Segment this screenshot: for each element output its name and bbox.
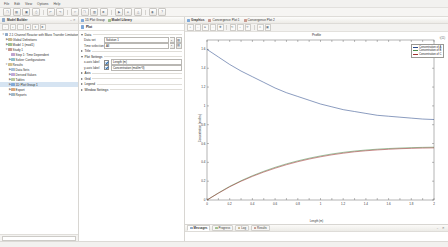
- move-down-icon[interactable]: ▼: [32, 24, 39, 31]
- copy-button[interactable]: ❐: [81, 8, 89, 16]
- section-label: Data: [85, 33, 92, 37]
- y-tick-label: 1.2: [201, 85, 206, 89]
- section-twisty-icon[interactable]: [81, 34, 83, 36]
- new-file-button[interactable]: ❐: [3, 8, 11, 16]
- x-tick-label: 0.6: [273, 202, 278, 206]
- save-button[interactable]: ▣: [22, 8, 30, 16]
- settings-tab-0[interactable]: 1D Plot Group: [81, 18, 105, 22]
- y-axis-label-checkbox[interactable]: [104, 65, 109, 70]
- dock-tab-progress[interactable]: Progress: [212, 225, 233, 232]
- dock-tab-label: Log: [241, 226, 246, 230]
- time-selection-chevron-down-icon[interactable]: ▾: [170, 43, 175, 49]
- section-twisty-icon[interactable]: [81, 83, 83, 85]
- paste-button[interactable]: ▧: [90, 8, 98, 16]
- tree-item-label: 2.1 Channel Reactor with Mass Transfer L…: [9, 33, 78, 37]
- build-button[interactable]: ▶: [115, 8, 123, 16]
- menu-item-view[interactable]: View: [25, 2, 32, 6]
- collapse-all-icon[interactable]: −: [2, 24, 9, 31]
- x-tick-label: 0.2: [228, 202, 233, 206]
- time-selection-combo[interactable]: All: [104, 43, 169, 49]
- tree-item[interactable]: ▼2.1 Channel Reactor with Mass Transfer …: [0, 32, 78, 37]
- settings-panel: 1D Plot GroupModel Library Plot DataData…: [79, 17, 185, 241]
- dock-tab-log[interactable]: Log: [235, 225, 249, 232]
- plot-canvas[interactable]: Profile t(11) 00.20.40.60.811.21.41.61.8…: [185, 32, 448, 225]
- help-button[interactable]: ?: [158, 8, 166, 16]
- zoom-out-icon[interactable]: −: [195, 24, 202, 31]
- print-graphics-icon[interactable]: ⎙: [257, 24, 264, 31]
- model-tree[interactable]: ▼2.1 Channel Reactor with Mass Transfer …: [0, 31, 78, 234]
- zoom-extents-icon[interactable]: ⧉: [202, 24, 209, 31]
- section-twisty-icon[interactable]: [81, 72, 83, 74]
- graphics-tab-2[interactable]: Convergence Plot 2: [244, 18, 275, 22]
- dock-tab-label: Progress: [219, 226, 231, 230]
- undo-button[interactable]: ↶: [47, 8, 55, 16]
- pan-icon[interactable]: ✚: [217, 24, 224, 31]
- dock-tab-results[interactable]: Results: [251, 225, 270, 232]
- move-up-icon[interactable]: ▲: [25, 24, 32, 31]
- compute-button[interactable]: =: [124, 8, 132, 16]
- section-rule: [104, 56, 182, 57]
- section-twisty-icon[interactable]: [81, 56, 83, 58]
- expand-all-icon[interactable]: +: [10, 24, 17, 31]
- section-twisty-icon[interactable]: [81, 78, 83, 80]
- tree-item-label: Results: [13, 63, 23, 67]
- dock-collapse-icon[interactable]: −: [436, 226, 440, 230]
- settings-section-data: DataData setSolution 1▾▤Time selectionAl…: [79, 32, 184, 49]
- cut-button[interactable]: ✂: [71, 8, 79, 16]
- tree-item-label: Reports: [16, 93, 27, 97]
- dock-tab-messages[interactable]: Messages: [187, 225, 210, 232]
- section-label: Title: [85, 49, 91, 53]
- image-snapshot-icon[interactable]: ▣: [265, 24, 272, 31]
- zoom-box-icon[interactable]: □: [210, 24, 217, 31]
- redo-button[interactable]: ↷: [56, 8, 64, 16]
- graphics-tab-0[interactable]: Graphics: [187, 18, 204, 22]
- legend-swatch: [413, 47, 418, 48]
- delete-button[interactable]: ✖: [100, 8, 108, 16]
- graphics-tab-icon: [208, 19, 211, 22]
- time-selection-browse-button[interactable]: ▤: [176, 43, 182, 49]
- x-tick-label: 0: [206, 202, 208, 206]
- settings-title: Plot: [86, 25, 92, 29]
- graphics-tab-label: Convergence Plot 2: [248, 18, 275, 22]
- section-twisty-icon[interactable]: [81, 89, 83, 91]
- section-rule: [97, 84, 182, 85]
- settings-tab-1[interactable]: Model Library: [108, 18, 132, 22]
- tree-node-icon: [11, 88, 15, 92]
- delete-node-icon[interactable]: ✖: [40, 24, 47, 31]
- dock-tab-icon: [254, 227, 257, 230]
- dock-close-icon[interactable]: ✕: [441, 226, 446, 230]
- settings-tab-label: Model Library: [112, 18, 132, 22]
- settings-body: DataData setSolution 1▾▤Time selectionAl…: [79, 31, 184, 241]
- menu-item-options[interactable]: Options: [37, 2, 48, 6]
- tree-item-label: 1D Plot Group 1: [16, 83, 38, 87]
- scene-light-icon[interactable]: ☀: [245, 24, 252, 31]
- tree-node-icon: [11, 83, 15, 87]
- zoom-in-icon[interactable]: +: [187, 24, 194, 31]
- tree-item[interactable]: ▶Reports: [0, 92, 78, 97]
- field-label: Time selection: [84, 44, 102, 48]
- panel-minimize-icon[interactable]: ─: [70, 18, 72, 22]
- panel-close-icon[interactable]: ✕: [73, 18, 76, 22]
- section-twisty-icon[interactable]: [81, 50, 83, 52]
- y-axis-label-input[interactable]: Concentration (mol/m^3): [111, 65, 182, 71]
- rotate-icon[interactable]: ↻: [230, 24, 237, 31]
- graphics-tab-icon: [187, 19, 190, 22]
- menu-item-file[interactable]: File: [4, 2, 9, 6]
- print-button[interactable]: ⎙: [32, 8, 40, 16]
- mesh-button[interactable]: △: [134, 8, 142, 16]
- menu-item-edit[interactable]: Edit: [14, 2, 20, 6]
- show-hide-icon[interactable]: □: [17, 24, 24, 31]
- tree-item-label: Derived Values: [16, 73, 37, 77]
- transparency-icon[interactable]: ◐: [237, 24, 244, 31]
- section-label: Axis: [85, 71, 91, 75]
- section-header-window-settings[interactable]: Window Settings: [81, 87, 182, 93]
- plot-button[interactable]: ◉: [149, 8, 157, 16]
- dock-tab-icon: [190, 227, 193, 230]
- open-file-button[interactable]: ▤: [13, 8, 21, 16]
- graphics-tab-1[interactable]: Convergence Plot 1: [208, 18, 239, 22]
- section-rule: [110, 89, 182, 90]
- menu-item-help[interactable]: Help: [53, 2, 60, 6]
- dock-tab-bar: MessagesProgressLogResults−✕: [185, 225, 448, 232]
- x-axis-label-checkbox[interactable]: [104, 60, 109, 65]
- section-label: Window Settings: [85, 88, 109, 92]
